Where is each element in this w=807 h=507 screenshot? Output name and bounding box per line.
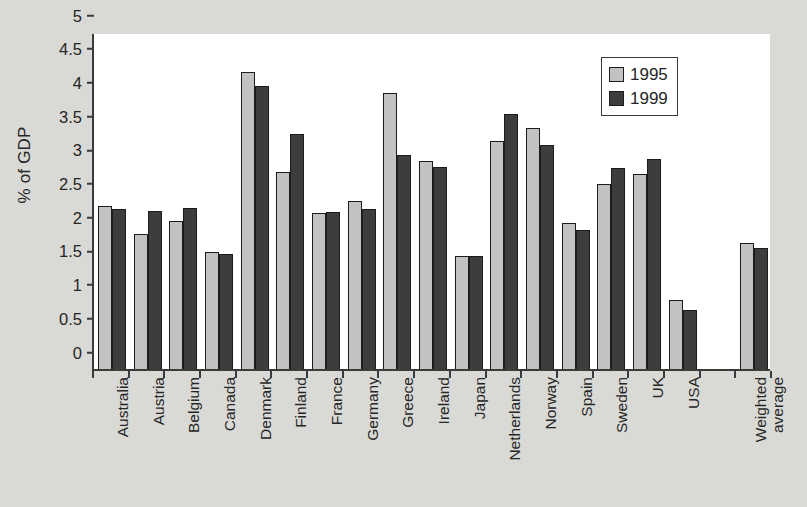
y-axis-tick-label: 0 bbox=[73, 344, 87, 361]
bar-group bbox=[415, 34, 451, 369]
bar-1995[interactable] bbox=[134, 234, 148, 369]
legend-label: 1995 bbox=[630, 66, 668, 83]
y-axis-tick: 0.5 bbox=[59, 311, 94, 328]
bar-1999[interactable] bbox=[683, 310, 697, 369]
bar-1995[interactable] bbox=[383, 93, 397, 369]
bar-1999[interactable] bbox=[611, 168, 625, 369]
bar-chart-figure: % of GDP 00.511.522.533.544.55 Australia… bbox=[0, 0, 807, 507]
y-axis-tick-mark bbox=[87, 15, 94, 17]
x-axis-label: Germany bbox=[365, 377, 381, 502]
y-axis-tick: 4 bbox=[73, 75, 94, 92]
y-axis-tick-label: 5 bbox=[73, 7, 87, 24]
x-axis-label: Belgium bbox=[186, 377, 202, 502]
bar-1995[interactable] bbox=[419, 161, 433, 369]
bar-1995[interactable] bbox=[562, 223, 576, 369]
y-axis-tick-label: 0.5 bbox=[59, 311, 87, 328]
x-axis-label: Japan bbox=[472, 377, 488, 502]
y-axis-tick: 3.5 bbox=[59, 108, 94, 125]
x-axis-label: Sweden bbox=[614, 377, 630, 502]
bar-group bbox=[451, 34, 487, 369]
bar-1995[interactable] bbox=[669, 300, 683, 369]
x-axis-tick-mark bbox=[92, 371, 94, 378]
y-axis-tick-mark bbox=[87, 149, 94, 151]
bar-1995[interactable] bbox=[169, 221, 183, 369]
x-axis-label: Greece bbox=[400, 377, 416, 502]
x-axis-label: UK bbox=[650, 377, 666, 502]
bar-group bbox=[487, 34, 523, 369]
bar-group bbox=[701, 34, 737, 369]
y-axis-tick-mark bbox=[87, 183, 94, 185]
bar-1999[interactable] bbox=[433, 167, 447, 369]
y-axis-tick-mark bbox=[87, 82, 94, 84]
bar-1995[interactable] bbox=[455, 256, 469, 369]
x-axis-label: USA bbox=[686, 377, 702, 502]
bar-group bbox=[344, 34, 380, 369]
bar-1995[interactable] bbox=[241, 72, 255, 369]
bar-1999[interactable] bbox=[362, 209, 376, 369]
bar-1999[interactable] bbox=[326, 212, 340, 369]
y-axis-tick-mark bbox=[87, 116, 94, 118]
bar-1999[interactable] bbox=[754, 248, 768, 369]
bar-1999[interactable] bbox=[540, 145, 554, 369]
y-axis-tick: 1 bbox=[73, 277, 94, 294]
legend-swatch bbox=[609, 67, 624, 82]
x-axis-label: France bbox=[329, 377, 345, 502]
y-axis-tick: 3 bbox=[73, 142, 94, 159]
x-axis-label: Austria bbox=[151, 377, 167, 502]
x-axis-label: Weighted average bbox=[753, 377, 786, 502]
bar-1999[interactable] bbox=[504, 114, 518, 369]
y-axis-tick-mark bbox=[87, 250, 94, 252]
y-axis-tick-label: 4.5 bbox=[59, 41, 87, 58]
y-axis-tick-label: 2.5 bbox=[59, 176, 87, 193]
bar-1995[interactable] bbox=[205, 252, 219, 369]
y-axis-tick: 1.5 bbox=[59, 243, 94, 260]
x-axis-label: Ireland bbox=[436, 377, 452, 502]
bar-group bbox=[558, 34, 594, 369]
y-axis-tick: 2 bbox=[73, 209, 94, 226]
x-axis-label: Canada bbox=[222, 377, 238, 502]
bar-1999[interactable] bbox=[255, 86, 269, 369]
bar-1999[interactable] bbox=[576, 230, 590, 369]
y-axis-title: % of GDP bbox=[15, 105, 35, 225]
bar-1995[interactable] bbox=[526, 128, 540, 369]
y-axis-tick-mark bbox=[87, 352, 94, 354]
y-axis-tick-label: 2 bbox=[73, 209, 87, 226]
legend-swatch bbox=[609, 91, 624, 106]
bar-group bbox=[130, 34, 166, 369]
bar-1995[interactable] bbox=[490, 141, 504, 369]
bar-1999[interactable] bbox=[647, 159, 661, 369]
bar-group bbox=[379, 34, 415, 369]
bar-1999[interactable] bbox=[290, 134, 304, 369]
bar-1995[interactable] bbox=[98, 206, 112, 369]
bar-1999[interactable] bbox=[112, 209, 126, 369]
x-axis-label: Netherlands bbox=[507, 377, 523, 502]
bar-group bbox=[522, 34, 558, 369]
y-axis-tick-mark bbox=[87, 217, 94, 219]
bar-1995[interactable] bbox=[633, 174, 647, 369]
legend: 19951999 bbox=[601, 57, 678, 116]
bar-1995[interactable] bbox=[597, 184, 611, 369]
y-axis-tick-mark bbox=[87, 284, 94, 286]
x-axis-label: Norway bbox=[543, 377, 559, 502]
bar-1995[interactable] bbox=[348, 201, 362, 369]
bar-1995[interactable] bbox=[276, 172, 290, 369]
bar-1999[interactable] bbox=[148, 211, 162, 369]
bar-1999[interactable] bbox=[469, 256, 483, 369]
legend-item[interactable]: 1995 bbox=[609, 62, 668, 86]
x-axis-label: Denmark bbox=[258, 377, 274, 502]
bar-1999[interactable] bbox=[397, 155, 411, 369]
bar-1995[interactable] bbox=[312, 213, 326, 369]
y-axis-tick-label: 1 bbox=[73, 277, 87, 294]
bar-1995[interactable] bbox=[740, 243, 754, 369]
y-axis-tick-label: 4 bbox=[73, 75, 87, 92]
bar-1999[interactable] bbox=[219, 254, 233, 369]
x-axis-tick-mark bbox=[734, 371, 736, 378]
y-axis-tick-label: 1.5 bbox=[59, 243, 87, 260]
bar-group bbox=[308, 34, 344, 369]
bar-group bbox=[272, 34, 308, 369]
legend-label: 1999 bbox=[630, 90, 668, 107]
bar-1999[interactable] bbox=[183, 208, 197, 369]
y-axis-tick-mark bbox=[87, 318, 94, 320]
y-axis-tick: 5 bbox=[73, 7, 94, 24]
legend-item[interactable]: 1999 bbox=[609, 86, 668, 110]
